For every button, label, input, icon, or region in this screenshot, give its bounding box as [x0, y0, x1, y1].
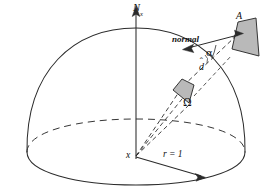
equator-back-arc	[96, 135, 205, 147]
direction-label: ˆd	[199, 62, 204, 72]
axis-label-subscript: x	[140, 10, 143, 17]
axis-label: Nx	[133, 3, 143, 16]
solid-angle-label: Ω	[183, 97, 192, 108]
radius-label: r = 1	[163, 150, 183, 160]
direction-hat-accent: ˆ	[200, 58, 203, 68]
normal-arrowhead	[183, 44, 194, 52]
axis-label-main: N	[133, 2, 140, 13]
figure-canvas: Nx A normal α ˆd Ω x r = 1	[0, 0, 272, 190]
cone-ray-middle	[136, 94, 186, 156]
patch-a	[232, 18, 259, 56]
radius-arrowhead	[195, 174, 205, 182]
hemisphere-diagram-svg	[0, 0, 272, 190]
center-point-label: x	[126, 151, 130, 161]
patch-a-label: A	[236, 11, 242, 21]
alpha-label: α	[206, 48, 213, 58]
normal-label: normal	[172, 35, 199, 44]
radius-line	[136, 157, 201, 176]
